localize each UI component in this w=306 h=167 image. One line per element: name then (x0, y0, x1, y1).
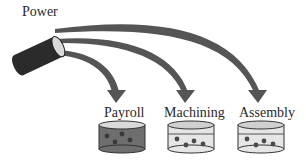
power-source-icon (9, 35, 67, 78)
machining-container-icon (168, 121, 214, 153)
diagram-canvas (0, 0, 306, 167)
target-label-machining: Machining (164, 105, 225, 121)
arrow-to-payroll (58, 50, 126, 103)
arrow-to-machining (56, 38, 195, 103)
target-label-payroll: Payroll (104, 105, 144, 121)
assembly-container-icon (238, 121, 284, 153)
source-label: Power (22, 4, 58, 20)
target-label-assembly: Assembly (239, 105, 295, 121)
payroll-container-icon (99, 121, 145, 153)
